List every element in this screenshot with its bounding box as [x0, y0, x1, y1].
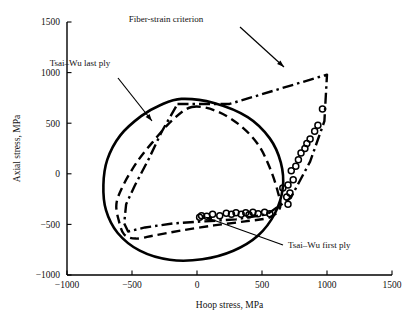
y-tick-label: 1000: [41, 68, 60, 78]
x-tick-label: 0: [195, 280, 200, 290]
y-tick-label: 500: [46, 119, 61, 129]
x-tick-label: 1500: [383, 280, 402, 290]
figure-background: [0, 0, 420, 325]
x-tick-label: 500: [255, 280, 270, 290]
annotation-label-tsai-wu-first-ply: Tsai–Wu first ply: [288, 240, 351, 250]
x-tick-label: 1000: [318, 280, 337, 290]
x-tick-label: −500: [122, 280, 142, 290]
chart-canvas: −1000−500050010001500 −1000−500050010001…: [0, 0, 420, 325]
x-tick-label: −1000: [55, 280, 80, 290]
x-axis-title: Hoop stress, MPa: [196, 300, 264, 310]
annotation-label-fiber-strain-criterion: Fiber-strain criterion: [129, 14, 204, 24]
y-tick-label: −500: [40, 220, 60, 230]
y-tick-label: −1000: [36, 270, 61, 280]
y-tick-label: 0: [55, 169, 60, 179]
chart-figure: −1000−500050010001500 −1000−500050010001…: [0, 0, 420, 325]
y-axis-title: Axial stress, MPa: [12, 114, 22, 182]
y-tick-label: 1500: [41, 17, 60, 27]
annotation-label-tsai-wu-last-ply: Tsai–Wu last ply: [50, 58, 111, 68]
